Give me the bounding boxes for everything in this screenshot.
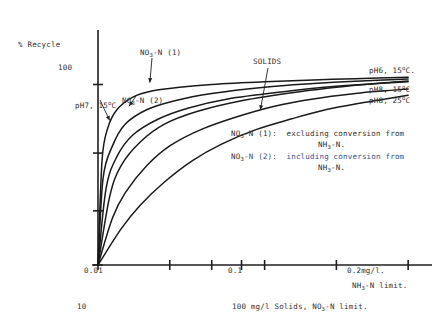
curve-label-solids: SOLIDS [253, 57, 281, 66]
x-tick-label-0.1: 0.1 [228, 266, 242, 275]
y-axis-title: % Recycle [18, 40, 60, 49]
legend-note-no3n-1-cont: NH3-N. [318, 140, 345, 152]
x-tick-label-0.01: 0.01 [84, 266, 103, 275]
curve-label-no3n-1: NO3-N (1) [140, 48, 181, 60]
curve-end-label-ph8-25c: pH8, 25oC [369, 94, 410, 105]
curve-end-label-ph6-15c: pH6, 15oC. [369, 64, 415, 75]
legend-note-no3n-1: NO3-N (1): excluding conversion from [231, 129, 404, 141]
legend-note-no3n-2: NO3-N (2): including conversion from [231, 152, 404, 164]
legend-note-no3n-2-cont: NH3-N. [318, 163, 345, 175]
curve-end-label-ph8-15c: pH8, 15oC [369, 83, 410, 94]
curve-label-ph7-15c: pH7, 15oC [75, 99, 116, 110]
x-axis-secondary-label-10: 10 [77, 302, 86, 311]
x-axis-secondary-label-solids: 100 mg/l Solids, NO3-N limit. [232, 302, 368, 314]
x-axis-unit-nh3-limit: NH3-N limit. [352, 281, 407, 293]
x-tick-label-0.2: 0.2mg/l. [347, 266, 385, 275]
curve-label-no3n-2: NO3-N (2) [122, 96, 163, 108]
y-tick-label-100: 100 [58, 63, 72, 72]
